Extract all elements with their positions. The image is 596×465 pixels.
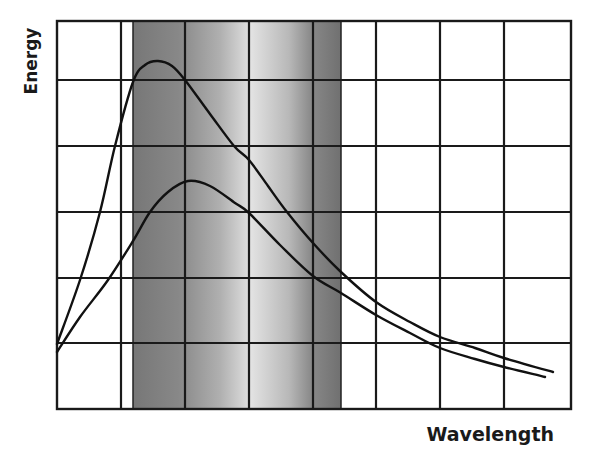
y-axis-label: Energy: [21, 28, 41, 95]
x-axis-label: Wavelength: [426, 423, 554, 445]
blackbody-chart: Energy Wavelength: [0, 0, 596, 465]
